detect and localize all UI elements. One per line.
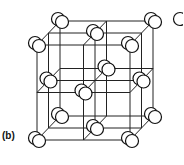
atom [33,40,46,53]
atom [126,40,139,53]
atom [79,87,92,100]
atom [44,75,57,88]
atom [91,123,104,136]
crystal-lattice-diagram: (b) [0,0,183,165]
partial-atom [174,13,184,26]
atom [137,75,150,88]
atom [56,111,69,124]
figure-label: (b) [2,130,15,141]
atom [56,16,69,29]
atom [33,135,46,148]
atom [149,111,162,124]
atom [149,16,162,29]
lattice-svg [0,0,183,165]
atom [91,28,104,41]
atom [126,135,139,148]
atom [102,63,115,76]
